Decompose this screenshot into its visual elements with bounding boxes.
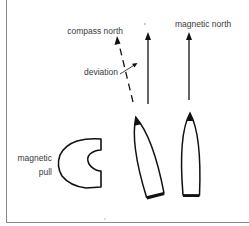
magnetic-pull-label: magnetic pull	[18, 153, 53, 177]
boat-deviated-icon	[127, 115, 166, 200]
stray-dot	[144, 23, 146, 25]
magnet-icon	[58, 139, 101, 188]
magnetic-pull-line1: magnetic	[18, 153, 53, 163]
magnetic-pull-line2: pull	[18, 167, 53, 177]
magnetic-north-label: magnetic north	[175, 19, 231, 29]
stray-mark	[104, 218, 105, 219]
deviation-diagram	[0, 0, 249, 226]
deviation-pointer-arrow	[120, 63, 138, 74]
deviation-label: deviation	[84, 67, 118, 77]
reference-north-arrow	[145, 32, 151, 104]
boat-upright-icon	[182, 113, 200, 197]
magnetic-north-arrow	[186, 32, 192, 100]
compass-north-label: compass north	[67, 26, 123, 36]
